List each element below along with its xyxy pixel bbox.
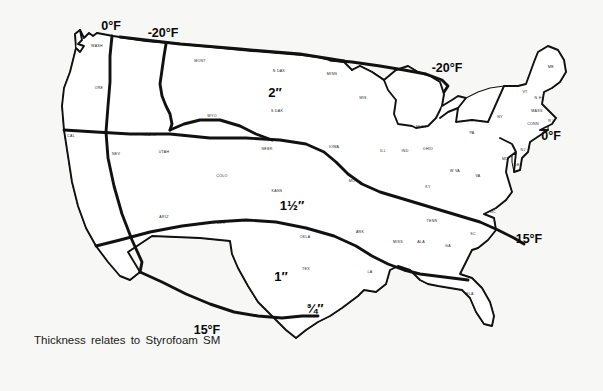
thickness-2in: 2″	[268, 85, 281, 100]
thickness-1in: 1″	[274, 269, 287, 284]
state-label-nj: NJ	[521, 148, 526, 152]
state-label-colo: COLO	[216, 174, 227, 178]
insulation-thickness-map: WASHORECALNEVIDAHOUTAHARIZMONTWYOCOLON M…	[0, 0, 603, 391]
state-label-va: VA	[475, 174, 480, 178]
state-label-nebr: NEBR	[261, 147, 272, 151]
state-label-ala: ALA	[417, 240, 425, 244]
state-label-ga: GA	[445, 244, 451, 248]
state-label-md: MD	[502, 157, 508, 161]
state-label-ill: ILL	[380, 149, 386, 153]
state-label-wis: WIS	[359, 96, 367, 100]
state-label-minn: MINN	[327, 72, 337, 76]
state-label-tenn: TENN	[427, 219, 438, 223]
state-label-sc: SC	[470, 232, 476, 236]
thickness-0-75in: ¾″	[306, 301, 323, 316]
state-label-pa: PA	[469, 131, 474, 135]
state-label-ny: NY	[497, 115, 503, 119]
state-label-mont: MONT	[194, 59, 206, 63]
state-label-mo: MO	[349, 179, 355, 183]
state-label-w-va: W VA	[450, 169, 460, 173]
temp-minus20f-lakes: -20°F	[432, 61, 463, 75]
state-label-ind: IND	[401, 149, 408, 153]
state-label-mich: MICH	[416, 125, 426, 129]
state-label-me: ME	[548, 65, 554, 69]
state-label-iowa: IOWA	[329, 145, 340, 149]
state-label-idaho: IDAHO	[144, 133, 157, 137]
state-label-kans: KANS	[272, 189, 283, 193]
state-label-mass: MASS	[531, 109, 543, 113]
temp-0f-northeast: 0°F	[541, 129, 561, 143]
state-label-r-i: R I	[548, 119, 553, 123]
temp-minus20f-west: -20°F	[148, 26, 179, 40]
state-label-conn: CONN	[527, 122, 539, 126]
state-label-tex: TEX	[302, 267, 310, 271]
state-label-s-dak: S DAK	[271, 109, 284, 113]
state-label-la: LA	[368, 270, 373, 274]
country-outline-group	[62, 30, 566, 338]
state-label-n-mex: N MEX	[213, 221, 226, 225]
map-svg: WASHORECALNEVIDAHOUTAHARIZMONTWYOCOLON M…	[0, 0, 603, 391]
map-caption: Thickness relates to Styrofoam SM	[34, 334, 220, 346]
state-label-wash: WASH	[91, 44, 103, 48]
us-coastline	[62, 30, 566, 338]
temp-15f-southeast: 15°F	[516, 232, 543, 246]
state-label-nc: NC	[490, 210, 496, 214]
state-label-ky: KY	[425, 185, 431, 189]
state-label-ariz: ARIZ	[159, 215, 169, 219]
state-label-miss: MISS	[393, 240, 403, 244]
thickness-1-5in: 1½″	[280, 198, 304, 213]
state-label-wyo: WYO	[207, 114, 216, 118]
state-label-n-h: N H	[534, 96, 541, 100]
state-label-fla: FLA	[466, 292, 474, 296]
state-label-utah: UTAH	[159, 150, 170, 154]
state-label-cal: CAL	[67, 134, 75, 138]
state-label-ore: ORE	[95, 86, 104, 90]
state-label-del: DEL	[514, 163, 522, 167]
state-label-vt: VT	[522, 90, 528, 94]
state-label-ark: ARK	[356, 230, 365, 234]
state-label-okla: OKLA	[300, 235, 311, 239]
state-label-n-dak: N DAK	[273, 69, 286, 73]
state-label-ohio: OHIO	[423, 147, 433, 151]
temp-0f-northwest: 0°F	[101, 19, 121, 33]
state-label-nev: NEV	[112, 152, 121, 156]
